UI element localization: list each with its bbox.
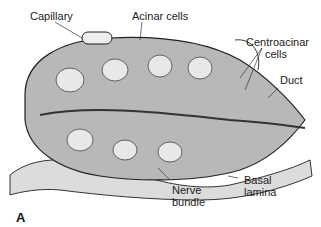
label-acinar-cells: Acinar cells	[132, 10, 188, 22]
label-centroacinar-2: cells	[265, 48, 287, 60]
label-duct: Duct	[280, 74, 303, 86]
label-basal-2: lamina	[244, 186, 276, 198]
label-capillary: Capillary	[30, 10, 73, 22]
label-basal-1: Basal	[244, 174, 272, 186]
label-nerve-2: bundle	[172, 196, 205, 208]
label-centroacinar-1: Centroacinar	[246, 36, 309, 48]
label-nerve-1: Nerve	[172, 184, 201, 196]
capillary-vessel	[82, 32, 112, 44]
panel-label: A	[16, 210, 25, 225]
